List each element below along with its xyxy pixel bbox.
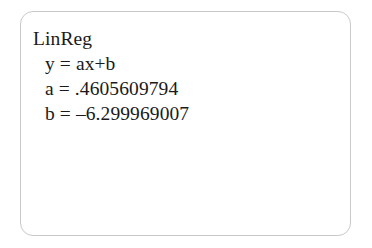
calculator-screenshot: LinReg y = ax+b a = .4605609794 b = –6.2… — [0, 0, 372, 248]
linreg-slope-line: a = .4605609794 — [33, 76, 340, 101]
result-line-list: LinReg y = ax+b a = .4605609794 b = –6.2… — [33, 26, 340, 126]
linreg-intercept-line: b = –6.299969007 — [33, 101, 340, 126]
linreg-equation-line: y = ax+b — [33, 51, 340, 76]
linreg-result-panel: LinReg y = ax+b a = .4605609794 b = –6.2… — [20, 11, 351, 236]
linreg-title: LinReg — [33, 26, 340, 51]
